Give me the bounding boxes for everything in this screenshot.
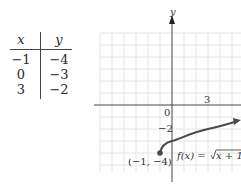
function-label-radicand: x + 1 (216, 150, 241, 161)
curve-arrow-icon (233, 118, 241, 125)
point-label: (−1, −4) (128, 156, 172, 167)
y-axis-label: y (169, 6, 176, 17)
x-tick-label: 3 (204, 94, 210, 105)
endpoint-marker (157, 150, 163, 156)
function-graph: y 3 0 −2 (−1, −4) f(x) = x + 1 (0, 0, 241, 184)
y-tick-label: −2 (158, 123, 173, 134)
origin-label: 0 (164, 107, 170, 118)
function-label-prefix: f(x) = (176, 150, 206, 161)
